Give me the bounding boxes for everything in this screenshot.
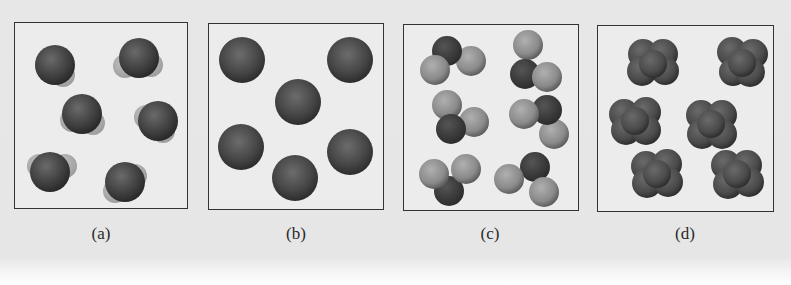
atom-b-4 bbox=[218, 124, 264, 170]
atom-b-2 bbox=[327, 37, 373, 83]
molecule-c-5 bbox=[419, 154, 481, 206]
atom-b-6 bbox=[272, 155, 318, 201]
panel-c-molecules bbox=[404, 25, 580, 212]
atom-b-1 bbox=[219, 37, 265, 83]
molecule-d-6 bbox=[711, 150, 764, 199]
molecule-d-5 bbox=[631, 149, 683, 198]
panel-d-label: (d) bbox=[655, 224, 715, 244]
panel-a bbox=[14, 22, 188, 209]
molecule-a-3 bbox=[60, 94, 105, 135]
panel-a-molecules bbox=[15, 23, 189, 210]
molecule-c-2 bbox=[510, 30, 562, 92]
molecule-a-6 bbox=[103, 162, 147, 203]
panel-a-label: (a) bbox=[71, 224, 131, 244]
molecule-a-5 bbox=[27, 152, 77, 192]
molecule-c-1 bbox=[420, 36, 486, 85]
molecule-c-4 bbox=[509, 95, 569, 149]
molecule-d-1 bbox=[627, 39, 679, 86]
panel-b-label: (b) bbox=[266, 224, 326, 244]
molecule-a-2 bbox=[113, 38, 163, 78]
panel-d bbox=[597, 25, 774, 212]
molecule-a-1 bbox=[35, 45, 75, 87]
panel-c-label: (c) bbox=[460, 224, 520, 244]
panel-b-atoms bbox=[209, 24, 385, 211]
atom-b-5 bbox=[327, 129, 373, 175]
molecule-c-6 bbox=[494, 152, 559, 207]
atom-b-3 bbox=[275, 79, 321, 125]
molecule-a-4 bbox=[134, 101, 178, 143]
panel-d-molecules bbox=[598, 26, 775, 213]
molecule-d-2 bbox=[717, 37, 768, 87]
panel-c bbox=[403, 24, 579, 211]
molecular-models-figure: (a) (b) bbox=[0, 0, 791, 285]
panel-b bbox=[208, 23, 384, 210]
molecule-c-3 bbox=[432, 90, 489, 144]
molecule-d-4 bbox=[686, 100, 737, 149]
molecule-d-3 bbox=[609, 97, 661, 145]
